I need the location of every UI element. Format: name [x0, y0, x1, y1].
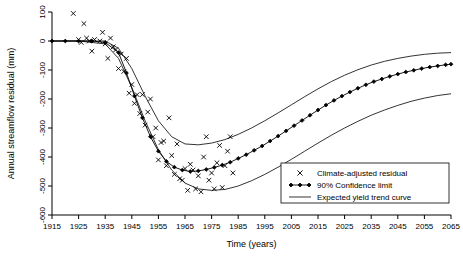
x-tick-label: 2065: [442, 222, 460, 231]
x-axis-title: Time (years): [226, 239, 276, 249]
expected-yield-trend-curve: [52, 41, 451, 172]
trend-marker: [252, 148, 256, 152]
y-tick-label: -300: [38, 119, 47, 136]
trend-marker: [444, 63, 448, 67]
trend-marker: [244, 153, 248, 157]
x-tick-label: 2015: [309, 222, 327, 231]
y-tick-label: -200: [38, 90, 47, 107]
trend-marker: [396, 72, 400, 76]
trend-marker: [388, 74, 392, 78]
x-tick-label: 1985: [229, 222, 247, 231]
chart-container: 1915192519351945195519651975198519952005…: [0, 0, 463, 263]
legend-label: Expected yield trend curve: [317, 193, 412, 202]
y-tick-label: -100: [38, 61, 47, 78]
y-tick-label: -400: [38, 148, 47, 165]
x-tick-label: 2055: [416, 222, 434, 231]
trend-marker: [404, 70, 408, 74]
y-tick-label: 0: [38, 38, 47, 43]
trend-marker: [228, 160, 232, 164]
legend-label: Climate-adjusted residual: [317, 169, 407, 178]
trend-marker: [340, 94, 344, 98]
trend-marker: [348, 90, 352, 94]
trend-marker: [449, 62, 453, 66]
x-tick-label: 2045: [389, 222, 407, 231]
chart-legend: Climate-adjusted residual90% Confidence …: [281, 163, 449, 203]
trend-marker: [196, 169, 200, 173]
y-tick-label: 100: [38, 5, 47, 19]
x-tick-label: 2005: [283, 222, 301, 231]
x-tick-label: 1965: [176, 222, 194, 231]
chart-svg: 1915192519351945195519651975198519952005…: [0, 0, 463, 263]
legend-label: 90% Confidence limit: [317, 181, 393, 190]
x-tick-label: 1925: [70, 222, 88, 231]
x-tick-label: 1935: [96, 222, 114, 231]
x-tick-label: 2035: [362, 222, 380, 231]
trend-marker: [412, 68, 416, 72]
y-tick-label: -600: [38, 206, 47, 223]
trend-marker: [204, 168, 208, 172]
x-tick-label: 1995: [256, 222, 274, 231]
trend-marker: [236, 157, 240, 161]
trend-marker: [420, 67, 424, 71]
trend-marker: [63, 39, 67, 43]
trend-marker: [364, 83, 368, 87]
x-tick-label: 1945: [123, 222, 141, 231]
trend-marker: [212, 166, 216, 170]
confidence-limit-upper: [52, 41, 451, 145]
x-tick-label: 2025: [336, 222, 354, 231]
y-axis-title: Annual streamflow residual (mm): [6, 48, 16, 180]
trend-marker: [50, 39, 54, 43]
trend-marker: [436, 64, 440, 68]
x-tick-label: 1955: [150, 222, 168, 231]
trend-marker: [372, 80, 376, 84]
trend-marker: [332, 99, 336, 103]
trend-marker: [428, 65, 432, 69]
x-tick-label: 1975: [203, 222, 221, 231]
y-tick-label: -500: [38, 177, 47, 194]
trend-marker: [356, 86, 360, 90]
trend-marker: [380, 77, 384, 81]
